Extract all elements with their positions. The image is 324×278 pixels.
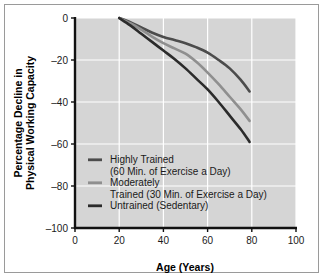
- y-tick-label: –100: [46, 223, 69, 234]
- legend-label-0: Highly Trained: [110, 154, 174, 165]
- legend-sublabel-0: (60 Min. of Exercise a Day): [110, 166, 231, 177]
- y-tick-label: –60: [51, 139, 68, 150]
- legend-label-1: Moderately: [110, 177, 159, 188]
- y-tick-label: 0: [62, 13, 68, 24]
- x-tick-label: 40: [158, 235, 170, 246]
- chart-figure: 0–20–40–60–80–100 020406080100 Age (Year…: [0, 0, 324, 278]
- legend-label-2: Untrained (Sedentary): [110, 200, 208, 211]
- y-axis-title-line1: Percentage Decline in: [12, 68, 24, 177]
- x-axis-ticks: 020406080100: [72, 228, 305, 246]
- decline-vs-age-line-chart: 0–20–40–60–80–100 020406080100 Age (Year…: [0, 0, 324, 278]
- y-tick-label: –20: [51, 55, 68, 66]
- x-axis-title: Age (Years): [156, 261, 214, 273]
- x-tick-label: 0: [72, 235, 78, 246]
- y-axis-title-line2: Physical Working Capacity: [24, 56, 36, 190]
- x-tick-label: 60: [202, 235, 214, 246]
- x-tick-label: 80: [246, 235, 258, 246]
- y-tick-label: –80: [51, 181, 68, 192]
- x-tick-label: 100: [288, 235, 305, 246]
- legend-sublabel-1: Trained (30 Min. of Exercise a Day): [110, 189, 267, 200]
- y-tick-label: –40: [51, 97, 68, 108]
- x-tick-label: 20: [114, 235, 126, 246]
- y-axis-ticks: 0–20–40–60–80–100: [46, 13, 75, 234]
